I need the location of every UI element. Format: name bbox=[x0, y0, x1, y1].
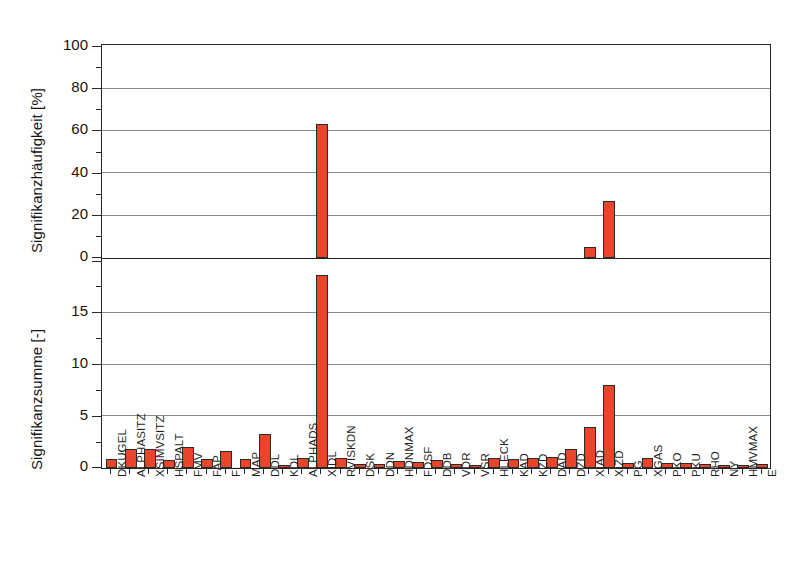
x-tick-e bbox=[761, 469, 762, 474]
x-tick-kad bbox=[512, 469, 513, 474]
x-tick-xsimvsitz bbox=[148, 469, 149, 474]
x-tick-ddb bbox=[435, 469, 436, 474]
x-axis-label-map: MAP bbox=[250, 452, 262, 477]
y-minor-tick-top-70 bbox=[96, 109, 101, 110]
x-tick-hleck bbox=[493, 469, 494, 474]
y-tick-label-top-0: 0 bbox=[28, 247, 88, 264]
y-tick-top-40 bbox=[92, 173, 101, 174]
x-axis-label-hspalt: HSPALT bbox=[173, 433, 185, 477]
x-tick-ny bbox=[722, 469, 723, 474]
x-tick-pg bbox=[627, 469, 628, 474]
y-tick-bottom-5 bbox=[92, 416, 101, 417]
y-axis-title-bottom: Signifikanzsumme [-] bbox=[28, 329, 45, 470]
x-tick-dsk bbox=[359, 469, 360, 474]
x-tick-dad bbox=[550, 469, 551, 474]
x-tick-xiad bbox=[588, 469, 589, 474]
x-axis-label-kzd: KZD bbox=[537, 454, 549, 477]
x-axis-label-fdsf: FDSF bbox=[422, 447, 434, 477]
y-tick-label-top-100: 100 bbox=[28, 36, 88, 53]
y-tick-label-bottom-5: 5 bbox=[28, 406, 88, 423]
x-tick-xidl bbox=[320, 469, 321, 474]
y-minor-tick-bottom-2.5 bbox=[96, 442, 101, 443]
bar-top-xiad bbox=[584, 247, 596, 258]
y-tick-bottom-10 bbox=[92, 364, 101, 365]
y-tick-top-60 bbox=[92, 130, 101, 131]
x-tick-dzd bbox=[569, 469, 570, 474]
y-tick-label-bottom-0: 0 bbox=[28, 457, 88, 474]
x-tick-map bbox=[244, 469, 245, 474]
x-tick-rho bbox=[703, 469, 704, 474]
x-axis-label-pku: PKU bbox=[690, 453, 702, 477]
y-minor-tick-top-30 bbox=[96, 194, 101, 195]
y-tick-label-top-40: 40 bbox=[28, 163, 88, 180]
x-axis-label-kad: KAD bbox=[518, 453, 530, 477]
x-axis-label-hleck: HLECK bbox=[498, 438, 510, 477]
y-minor-tick-bottom-17.5 bbox=[96, 286, 101, 287]
y-tick-top-100 bbox=[92, 46, 101, 47]
x-tick-vdr bbox=[454, 469, 455, 474]
x-tick-ddl bbox=[263, 469, 264, 474]
top-panel-plot-area bbox=[101, 44, 771, 259]
y-tick-top-80 bbox=[92, 88, 101, 89]
x-axis-label-dad: DAD bbox=[556, 452, 568, 477]
y-tick-bottom-20 bbox=[92, 261, 101, 262]
bottom-panel-bars bbox=[102, 259, 770, 468]
y-tick-label-top-80: 80 bbox=[28, 78, 88, 95]
x-axis-label-xiad: XIAD bbox=[594, 450, 606, 477]
x-tick-fi bbox=[225, 469, 226, 474]
x-axis-label-pko: PKO bbox=[671, 452, 683, 477]
bottom-panel-plot-area bbox=[101, 259, 771, 469]
y-minor-tick-bottom-7.5 bbox=[96, 390, 101, 391]
x-tick-kzd bbox=[531, 469, 532, 474]
x-axis-label-fmv: FMV bbox=[192, 452, 204, 477]
y-minor-tick-top-50 bbox=[96, 152, 101, 153]
y-tick-label-top-60: 60 bbox=[28, 120, 88, 137]
x-axis-label-xsimvsitz: XSIMVSITZ bbox=[154, 415, 166, 477]
x-axis-label-pg: PG bbox=[632, 460, 644, 477]
y-tick-label-bottom-15: 15 bbox=[28, 302, 88, 319]
x-axis-label-alphads: ALPHADS bbox=[307, 423, 319, 477]
x-tick-hdnmax bbox=[397, 469, 398, 474]
x-tick-hmvmax bbox=[742, 469, 743, 474]
x-axis-label-dkugel: DKUGEL bbox=[116, 429, 128, 477]
x-tick-fap bbox=[206, 469, 207, 474]
y-tick-top-0 bbox=[92, 257, 101, 258]
x-axis-label-hdnmax: HDNMAX bbox=[403, 427, 415, 477]
x-tick-vsr bbox=[474, 469, 475, 474]
x-axis-label-dzd: DZD bbox=[575, 453, 587, 477]
x-tick-ddn bbox=[378, 469, 379, 474]
x-tick-pko bbox=[665, 469, 666, 474]
x-tick-xizd bbox=[608, 469, 609, 474]
x-axis-label-rviskdn: RVISKDN bbox=[345, 425, 357, 477]
x-tick-pku bbox=[684, 469, 685, 474]
y-tick-bottom-15 bbox=[92, 312, 101, 313]
x-axis-label-xgas: XGAS bbox=[652, 445, 664, 477]
x-axis-label-alphasitz: ALPHASITZ bbox=[135, 413, 147, 477]
x-tick-rviskdn bbox=[340, 469, 341, 474]
x-axis-label-fi: FI bbox=[230, 467, 242, 477]
x-axis-label-kdl: KDL bbox=[288, 454, 300, 477]
x-axis-label-vdr: VDR bbox=[460, 452, 472, 477]
y-minor-tick-top-10 bbox=[96, 236, 101, 237]
bar-top-xizd bbox=[603, 201, 615, 258]
x-axis-label-fap: FAP bbox=[211, 455, 223, 477]
x-axis-label-xidl: XIDL bbox=[326, 451, 338, 477]
y-minor-tick-bottom-12.5 bbox=[96, 338, 101, 339]
y-tick-top-20 bbox=[92, 215, 101, 216]
x-axis-label-ny: NY bbox=[728, 461, 740, 477]
y-minor-tick-top-90 bbox=[96, 67, 101, 68]
x-axis-label-dsk: DSK bbox=[364, 453, 376, 477]
y-tick-label-top-20: 20 bbox=[28, 205, 88, 222]
y-tick-bottom-0 bbox=[92, 467, 101, 468]
x-axis-label-rho: RHO bbox=[709, 451, 721, 477]
bar-top-xidl bbox=[316, 124, 328, 258]
top-panel-bars bbox=[102, 45, 770, 258]
x-tick-xgas bbox=[646, 469, 647, 474]
x-axis-label-e: E bbox=[766, 469, 778, 477]
x-tick-fdsf bbox=[416, 469, 417, 474]
x-axis-label-hmvmax: HMVMAX bbox=[747, 426, 759, 477]
x-axis-label-ddb: DDB bbox=[441, 452, 453, 477]
x-axis-label-ddl: DDL bbox=[269, 454, 281, 477]
x-axis-label-ddn: DDN bbox=[384, 452, 396, 477]
y-tick-label-bottom-10: 10 bbox=[28, 354, 88, 371]
